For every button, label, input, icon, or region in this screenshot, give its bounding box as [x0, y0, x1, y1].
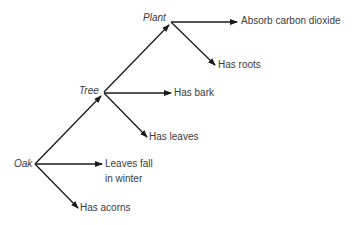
property-leaves-fall-line2: in winter: [105, 172, 142, 186]
property-has-leaves: Has leaves: [149, 130, 198, 144]
edge-plant-roots: [171, 22, 215, 65]
edge-tree-leaves: [104, 93, 147, 137]
edge-oak-acorns: [35, 164, 78, 208]
diagram-canvas: [0, 0, 357, 225]
property-leaves-fall-line1: Leaves fall: [105, 157, 153, 171]
property-has-acorns: Has acorns: [80, 201, 131, 215]
edge-oak-tree: [35, 96, 101, 164]
node-oak: Oak: [14, 158, 32, 170]
edge-tree-plant: [104, 25, 169, 92]
property-absorb-carbon-dioxide: Absorb carbon dioxide: [241, 14, 341, 28]
node-tree: Tree: [79, 85, 99, 97]
property-has-roots: Has roots: [218, 58, 261, 72]
node-plant: Plant: [143, 12, 166, 24]
property-has-bark: Has bark: [174, 86, 214, 100]
